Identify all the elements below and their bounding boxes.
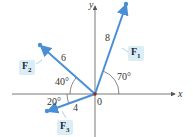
f1-label: F1 [128, 46, 144, 61]
f2-angle: 40° [55, 77, 69, 87]
f2-label: F2 [19, 60, 35, 75]
f1-angle: 70° [117, 72, 131, 82]
f3-angle: 20° [47, 97, 61, 107]
f1-magnitude: 8 [105, 33, 110, 43]
f3-label: F3 [57, 120, 73, 135]
x-axis-label: x [178, 89, 182, 99]
f2-magnitude: 6 [61, 53, 66, 63]
y-axis-label: y [89, 0, 93, 10]
origin-label: 0 [97, 97, 102, 107]
angle-arc-40 [70, 78, 76, 94]
f3-magnitude: 4 [73, 103, 78, 113]
